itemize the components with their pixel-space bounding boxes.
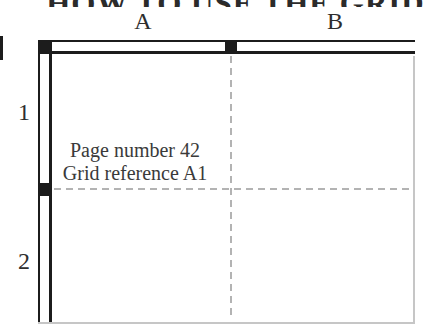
horizontal-grid-dashed-line	[54, 188, 414, 190]
page-bottom-edge	[38, 322, 415, 324]
column-label-b: B	[320, 8, 350, 34]
corner-tick-square	[38, 40, 52, 54]
left-margin-band	[38, 40, 52, 323]
row-divider-square	[38, 183, 52, 196]
grid-diagram: HOW TO USE THE GRID A B 1 2 Page number …	[0, 0, 431, 336]
grid-annotation: Page number 42 Grid reference A1	[55, 139, 215, 185]
column-divider-square	[225, 40, 237, 54]
row-label-2: 2	[11, 248, 37, 274]
row-label-1: 1	[11, 99, 37, 125]
cropped-title: HOW TO USE THE GRID	[40, 0, 431, 7]
cropped-border-fragment	[0, 36, 3, 60]
cropped-title-text: HOW TO USE THE GRID	[46, 0, 425, 7]
page-number-text: Page number 42	[55, 139, 215, 162]
grid-reference-text: Grid reference A1	[55, 162, 215, 185]
column-label-a: A	[128, 8, 158, 34]
page-right-edge	[413, 56, 415, 323]
